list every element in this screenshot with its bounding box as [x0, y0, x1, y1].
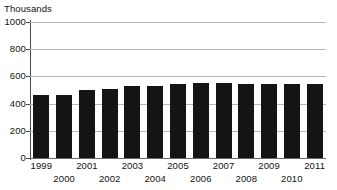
- x-axis-tick-label: 2000: [53, 173, 75, 184]
- x-axis-tick-label: 2002: [99, 173, 121, 184]
- x-axis-tick-label: 2010: [281, 173, 303, 184]
- x-axis-tick-label: 2011: [304, 160, 325, 171]
- y-axis-tick-label: 1000: [4, 17, 26, 27]
- bar: [102, 89, 118, 158]
- x-axis-tick-label: 2009: [258, 160, 280, 171]
- bar-chart: Thousands 10008006004002000 199920002001…: [0, 0, 337, 190]
- x-axis-tick-label: 2006: [190, 173, 212, 184]
- bar: [193, 83, 209, 158]
- bar: [307, 84, 323, 158]
- bar: [261, 84, 277, 158]
- x-axis-tick-label: 2003: [122, 160, 144, 171]
- y-axis-tick: [26, 49, 30, 50]
- y-axis-tick: [26, 131, 30, 132]
- bar: [56, 95, 72, 158]
- gridline: [30, 49, 326, 50]
- plot-area: [30, 22, 326, 158]
- bar: [238, 84, 254, 158]
- x-axis-tick-label: 1999: [31, 160, 53, 171]
- y-axis-tick: [26, 76, 30, 77]
- bar: [284, 84, 300, 158]
- axis-baseline: [30, 158, 326, 159]
- x-axis-tick-label: 2005: [167, 160, 189, 171]
- bar: [124, 86, 140, 158]
- y-axis-tick: [26, 22, 30, 23]
- x-axis-tick-label: 2007: [213, 160, 235, 171]
- gridline: [30, 22, 326, 23]
- y-axis-tick-label: 200: [10, 126, 26, 136]
- y-axis-tick: [26, 104, 30, 105]
- bar: [33, 95, 49, 158]
- bar: [147, 86, 163, 158]
- x-axis-tick-label: 2008: [236, 173, 258, 184]
- y-axis-labels: 10008006004002000: [0, 0, 26, 190]
- y-axis-tick-label: 800: [10, 44, 26, 54]
- x-axis-tick-label: 2004: [144, 173, 166, 184]
- gridline: [30, 76, 326, 77]
- y-axis-tick-label: 600: [10, 71, 26, 81]
- y-axis-tick: [26, 158, 30, 159]
- bar: [216, 83, 232, 158]
- bar: [170, 84, 186, 158]
- x-axis-tick-label: 2001: [76, 160, 98, 171]
- bar: [79, 90, 95, 158]
- y-axis-tick-label: 400: [10, 99, 26, 109]
